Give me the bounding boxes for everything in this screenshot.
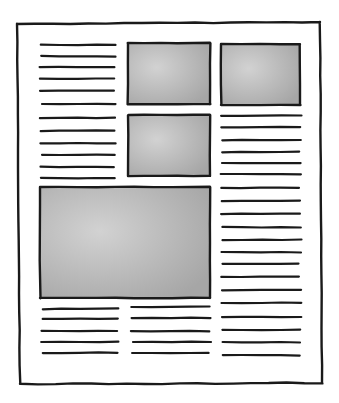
image-top-right bbox=[221, 44, 301, 105]
text-line bbox=[131, 307, 209, 308]
text-line bbox=[43, 308, 119, 309]
text-line bbox=[222, 227, 300, 228]
text-line bbox=[221, 115, 301, 116]
text-block-left-bottom bbox=[41, 308, 118, 353]
image-large bbox=[40, 187, 211, 298]
text-line bbox=[222, 152, 299, 153]
text-block-left-top bbox=[40, 45, 116, 179]
text-line bbox=[222, 290, 301, 291]
text-line bbox=[41, 167, 114, 168]
text-line bbox=[41, 342, 118, 343]
image-placeholders bbox=[40, 43, 301, 298]
text-line bbox=[40, 118, 115, 119]
text-line bbox=[223, 342, 300, 343]
text-line bbox=[41, 178, 115, 179]
text-line bbox=[132, 318, 211, 319]
text-line bbox=[223, 240, 302, 241]
text-line bbox=[41, 130, 115, 131]
text-block-middle-bottom bbox=[131, 307, 211, 354]
image-top-middle bbox=[128, 43, 211, 104]
text-line bbox=[223, 355, 300, 356]
text-line bbox=[221, 188, 299, 189]
text-line bbox=[222, 330, 300, 331]
text-block-right bbox=[221, 115, 302, 355]
text-line bbox=[222, 303, 302, 304]
image-fill bbox=[221, 44, 300, 105]
text-line bbox=[131, 331, 209, 332]
text-line bbox=[41, 56, 115, 57]
image-fill bbox=[128, 43, 210, 104]
page-layout-sketch bbox=[0, 0, 339, 403]
text-line bbox=[43, 352, 118, 353]
image-fill bbox=[128, 115, 210, 176]
image-middle bbox=[128, 115, 210, 176]
text-line bbox=[222, 201, 300, 202]
text-line bbox=[222, 252, 302, 253]
text-line bbox=[133, 342, 211, 343]
text-line bbox=[221, 214, 300, 215]
image-fill bbox=[40, 187, 210, 298]
